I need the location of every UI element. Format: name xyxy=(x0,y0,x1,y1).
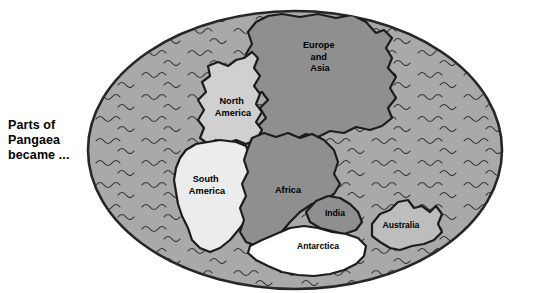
label-africa: Africa xyxy=(275,185,302,195)
label-australia: Australia xyxy=(383,220,420,230)
label-north-america-line-1: North xyxy=(219,96,244,106)
label-india: India xyxy=(325,208,345,218)
label-north-america: North America xyxy=(215,96,252,118)
landmass-europe-and-asia xyxy=(244,14,396,141)
caption-line-2: Pangaea xyxy=(8,133,100,148)
label-europe-and-asia-line-1: Europe xyxy=(303,40,335,50)
label-south-america: South America xyxy=(189,174,226,196)
label-south-america-line-2: America xyxy=(189,186,226,196)
pangaea-diagram: Parts of Pangaea became ... xyxy=(0,0,539,293)
caption-text: Parts of Pangaea became ... xyxy=(8,118,100,163)
label-south-america-line-1: South xyxy=(193,174,219,184)
label-north-america-line-2: America xyxy=(215,108,252,118)
label-antarctica: Antarctica xyxy=(297,241,339,251)
caption-line-1: Parts of xyxy=(8,118,100,133)
label-europe-and-asia-line-3: Asia xyxy=(310,63,330,73)
label-europe-and-asia-line-2: and xyxy=(311,52,327,62)
caption-line-3: became ... xyxy=(8,148,100,163)
